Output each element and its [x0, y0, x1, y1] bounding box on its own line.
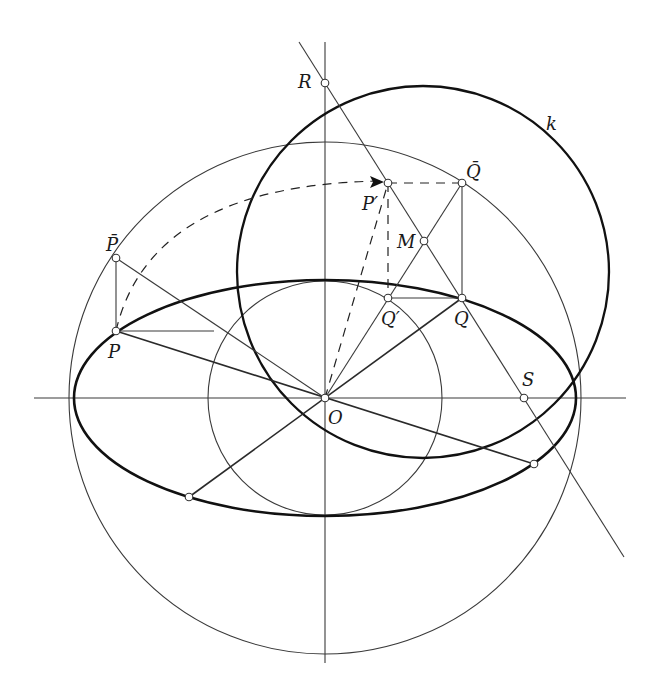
- point-ellipse-right: [530, 460, 538, 468]
- label-k: k: [546, 113, 557, 134]
- point-qbar: [458, 179, 466, 187]
- dashed-arc-p-pprime: [116, 181, 380, 331]
- geometry-figure: R k Q̄ P′ M P̄ P Q′ Q O S: [0, 0, 657, 690]
- label-pbar: P̄: [105, 233, 119, 255]
- label-p: P: [107, 341, 121, 362]
- dashed-o-pprime: [325, 183, 388, 398]
- point-qprime: [384, 294, 392, 302]
- arrowhead-icon: [370, 176, 384, 188]
- label-r: R: [297, 71, 312, 92]
- point-pprime: [384, 179, 392, 187]
- point-q: [458, 294, 466, 302]
- circle-k: [237, 86, 609, 458]
- line-o-qbar: [325, 183, 462, 398]
- label-s: S: [522, 369, 534, 390]
- point-r: [321, 79, 329, 87]
- point-m: [420, 237, 428, 245]
- label-qprime: Q′: [381, 308, 400, 329]
- label-q: Q: [454, 308, 469, 329]
- point-p: [112, 327, 120, 335]
- label-o: O: [328, 407, 343, 428]
- label-qbar: Q̄: [466, 160, 481, 182]
- label-pprime: P′: [361, 193, 378, 214]
- label-m: M: [396, 231, 416, 252]
- point-pbar: [112, 254, 120, 262]
- line-pbar-o: [116, 258, 325, 398]
- point-s: [520, 394, 528, 402]
- point-o: [321, 394, 329, 402]
- point-ellipse-left: [185, 493, 193, 501]
